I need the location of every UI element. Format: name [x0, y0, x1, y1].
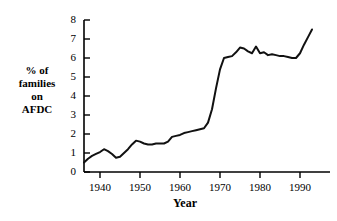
y-tick-label-4: 4 — [62, 89, 76, 101]
x-tick-label-1950: 1950 — [123, 181, 157, 193]
chart-figure: % of families on AFDC Year 012345678 194… — [0, 0, 337, 221]
x-axis-ticks — [100, 172, 300, 178]
y-tick-label-5: 5 — [62, 70, 76, 82]
plot-axes — [84, 20, 330, 172]
y-tick-label-1: 1 — [62, 146, 76, 158]
x-tick-label-1960: 1960 — [163, 181, 197, 193]
y-tick-label-0: 0 — [62, 165, 76, 177]
x-tick-label-1980: 1980 — [243, 181, 277, 193]
y-tick-label-8: 8 — [62, 13, 76, 25]
y-tick-label-3: 3 — [62, 108, 76, 120]
x-tick-label-1990: 1990 — [283, 181, 317, 193]
y-tick-label-7: 7 — [62, 32, 76, 44]
y-axis-ticks — [84, 20, 90, 172]
x-tick-label-1970: 1970 — [203, 181, 237, 193]
x-tick-label-1940: 1940 — [83, 181, 117, 193]
y-tick-label-2: 2 — [62, 127, 76, 139]
y-tick-label-6: 6 — [62, 51, 76, 63]
data-line-afdc — [84, 30, 312, 163]
